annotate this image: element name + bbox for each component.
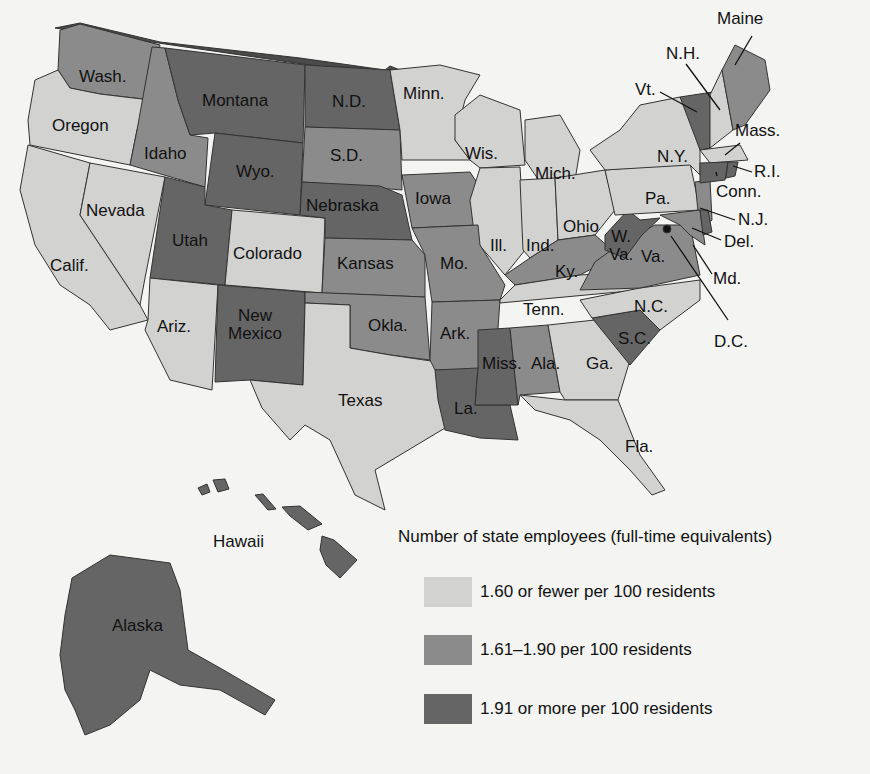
label-nc: N.C. (634, 298, 668, 316)
label-colorado: Colorado (233, 245, 302, 263)
label-idaho: Idaho (144, 145, 187, 163)
legend-label-low: 1.60 or fewer per 100 residents (480, 582, 715, 602)
state-hawaii-5 (320, 536, 357, 578)
label-mo: Mo. (440, 255, 468, 273)
label-ill: Ill. (490, 237, 507, 255)
label-nh: N.H. (666, 45, 700, 63)
label-wv-line2: Va. (609, 245, 633, 264)
legend-item-high: 1.91 or more per 100 residents (424, 694, 712, 724)
label-calif: Calif. (50, 257, 89, 275)
state-hawaii-2 (213, 479, 229, 492)
label-minn: Minn. (403, 85, 445, 103)
label-sc: S.C. (618, 330, 651, 348)
label-iowa: Iowa (415, 190, 451, 208)
label-maine: Maine (717, 10, 763, 28)
label-nm-line2: Mexico (228, 324, 282, 343)
label-wv: W.Va. (609, 228, 633, 264)
label-utah: Utah (172, 232, 208, 250)
label-del: Del. (724, 233, 754, 251)
label-wash: Wash. (79, 68, 127, 86)
state-alaska (60, 555, 275, 735)
label-fla: Fla. (625, 438, 653, 456)
state-ri (726, 162, 738, 178)
label-md: Md. (713, 270, 741, 288)
legend-swatch-low (424, 577, 472, 607)
label-mass: Mass. (735, 122, 780, 140)
label-montana: Montana (202, 92, 268, 110)
label-dc: D.C. (714, 333, 748, 351)
label-nevada: Nevada (86, 202, 145, 220)
label-miss: Miss. (482, 355, 522, 373)
label-ala: Ala. (531, 355, 560, 373)
dc-dot (663, 225, 671, 233)
label-ky: Ky. (555, 263, 578, 281)
label-hawaii: Hawaii (213, 533, 264, 551)
label-la: La. (454, 400, 478, 418)
label-pa: Pa. (645, 190, 671, 208)
label-oregon: Oregon (52, 117, 109, 135)
legend-swatch-high (424, 694, 472, 724)
label-ny: N.Y. (657, 148, 688, 166)
label-ohio: Ohio (563, 218, 599, 236)
legend-swatch-mid (424, 635, 472, 665)
state-conn (700, 162, 728, 183)
label-tenn: Tenn. (523, 301, 565, 319)
label-ind: Ind. (526, 237, 554, 255)
label-ariz: Ariz. (157, 318, 191, 336)
legend-title: Number of state employees (full-time equ… (398, 527, 772, 547)
label-mich: Mich. (535, 165, 576, 183)
label-wis: Wis. (465, 145, 498, 163)
label-ga: Ga. (586, 355, 613, 373)
state-hawaii-3 (255, 494, 276, 510)
label-okla: Okla. (368, 317, 408, 335)
label-kansas: Kansas (337, 255, 394, 273)
state-hawaii-1 (198, 484, 210, 495)
label-sd: S.D. (330, 147, 363, 165)
state-hawaii-4 (282, 506, 322, 530)
label-conn: Conn. (716, 183, 761, 201)
label-nj: N.J. (738, 211, 768, 229)
legend-item-low: 1.60 or fewer per 100 residents (424, 577, 715, 607)
label-ri: R.I. (754, 163, 780, 181)
legend-item-mid: 1.61–1.90 per 100 residents (424, 635, 692, 665)
label-vt: Vt. (635, 81, 656, 99)
label-va: Va. (641, 248, 665, 266)
legend-label-mid: 1.61–1.90 per 100 residents (480, 640, 692, 660)
label-texas: Texas (338, 392, 382, 410)
label-wv-line1: W. (611, 227, 631, 246)
label-wyo: Wyo. (236, 163, 275, 181)
label-nm-line1: New (238, 306, 272, 325)
label-ark: Ark. (440, 325, 470, 343)
label-nd: N.D. (332, 93, 366, 111)
label-nebraska: Nebraska (306, 197, 379, 215)
label-alaska: Alaska (112, 617, 163, 635)
legend-label-high: 1.91 or more per 100 residents (480, 699, 712, 719)
label-nm: NewMexico (228, 307, 282, 343)
